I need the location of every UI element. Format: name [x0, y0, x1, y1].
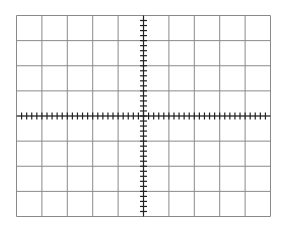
center-axes: [17, 16, 271, 217]
oscilloscope-graticule: [0, 0, 282, 231]
